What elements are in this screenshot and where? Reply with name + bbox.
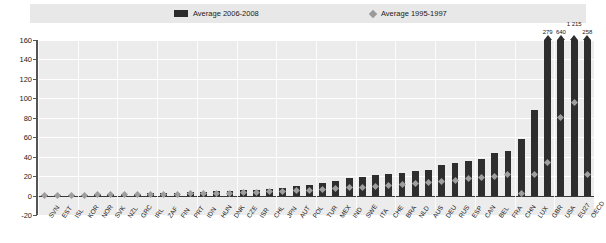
bar-swatch-icon	[174, 10, 188, 17]
y-axis-tick-label: 100	[0, 94, 32, 103]
vertical-gridline	[316, 40, 317, 215]
vertical-gridline	[237, 40, 238, 215]
diamond-marker	[41, 192, 48, 199]
plot-area	[38, 40, 594, 215]
bar	[518, 139, 525, 195]
y-axis-tick	[33, 215, 37, 216]
y-axis-tick-label: 0	[0, 192, 32, 201]
vertical-gridline	[435, 40, 436, 215]
chart-legend: Average 2006-2008 Average 1995-1997	[30, 4, 586, 23]
legend-label-bar: Average 2006-2008	[193, 9, 259, 18]
x-axis-labels: SVNESTISLKORNORSVKNZLGRCIRLZAFFINPRTIDNH…	[38, 215, 594, 243]
bar-value-label: 258	[577, 29, 597, 35]
diamond-marker	[81, 192, 88, 199]
legend-item-average-1995-1997: Average 1995-1997	[370, 4, 447, 23]
diamond-marker	[94, 191, 101, 198]
y-axis-tick-label: 40	[0, 153, 32, 162]
vertical-gridline	[395, 40, 396, 215]
diamond-swatch-icon	[369, 9, 377, 17]
legend-item-average-2006-2008: Average 2006-2008	[174, 4, 259, 23]
vertical-gridline	[554, 40, 555, 215]
y-axis-tick-label: 160	[0, 36, 32, 45]
bar-value-label: 1 215	[564, 21, 584, 27]
vertical-gridline	[38, 40, 39, 215]
vertical-gridline	[475, 40, 476, 215]
y-axis-tick-label: 20	[0, 172, 32, 181]
vertical-gridline	[276, 40, 277, 215]
diamond-marker	[107, 191, 114, 198]
bar	[571, 40, 578, 196]
vertical-gridline	[157, 40, 158, 215]
vertical-gridline	[515, 40, 516, 215]
y-axis-tick-label: 80	[0, 114, 32, 123]
y-axis-tick-label: 60	[0, 133, 32, 142]
y-axis-tick-label: 120	[0, 75, 32, 84]
y-axis-tick-label: -20	[0, 211, 32, 220]
vertical-gridline	[197, 40, 198, 215]
diamond-marker	[54, 192, 61, 199]
diamond-marker	[68, 192, 75, 199]
vertical-gridline	[78, 40, 79, 215]
diamond-marker	[121, 191, 128, 198]
bar	[544, 40, 551, 196]
diamond-marker	[147, 191, 154, 198]
vertical-gridline	[117, 40, 118, 215]
y-axis-tick-label: 140	[0, 55, 32, 64]
vertical-gridline	[356, 40, 357, 215]
diamond-marker	[134, 191, 141, 198]
legend-label-diamond: Average 1995-1997	[381, 9, 447, 18]
diamond-marker	[160, 191, 167, 198]
bar-value-label: 640	[551, 29, 571, 35]
bar	[531, 110, 538, 196]
